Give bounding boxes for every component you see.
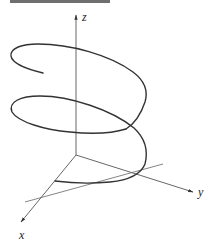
x-axis bbox=[21, 155, 76, 222]
y-axis bbox=[76, 155, 193, 192]
axes bbox=[21, 15, 193, 222]
z-axis-label: z bbox=[81, 10, 87, 24]
y-axis-label: y bbox=[197, 185, 204, 199]
helix-figure: z x y bbox=[0, 0, 214, 248]
x-axis-label: x bbox=[18, 228, 25, 242]
helix-curve bbox=[11, 44, 146, 183]
